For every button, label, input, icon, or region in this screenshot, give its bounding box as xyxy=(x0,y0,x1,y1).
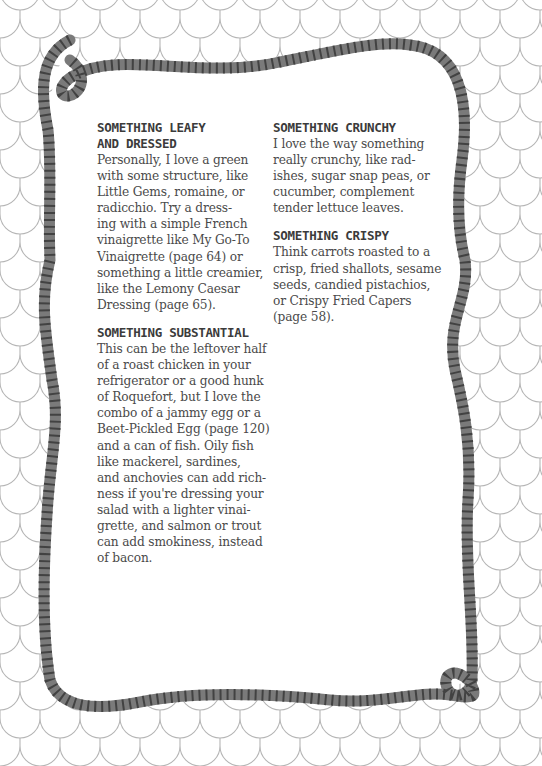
section-heading: SOMETHING CRUNCHY xyxy=(273,120,448,136)
section-crispy: SOMETHING CRISPY Think carrots roasted t… xyxy=(273,228,448,324)
section-heading: SOMETHING LEAFY AND DRESSED xyxy=(97,120,282,152)
section-body: Personally, I love a green with some str… xyxy=(97,152,282,313)
section-leafy-and-dressed: SOMETHING LEAFY AND DRESSED Personally, … xyxy=(97,120,282,313)
section-heading: SOMETHING CRISPY xyxy=(273,228,448,244)
section-heading: SOMETHING SUBSTANTIAL xyxy=(97,325,282,341)
section-body: This can be the leftover half of a roast… xyxy=(97,341,282,566)
cookbook-page: SOMETHING LEAFY AND DRESSED Personally, … xyxy=(0,0,542,766)
section-body: I love the way something really crunchy,… xyxy=(273,136,448,216)
left-column: SOMETHING LEAFY AND DRESSED Personally, … xyxy=(97,120,282,578)
section-substantial: SOMETHING SUBSTANTIAL This can be the le… xyxy=(97,325,282,566)
section-body: Think carrots roasted to a crisp, fried … xyxy=(273,244,448,324)
section-crunchy: SOMETHING CRUNCHY I love the way somethi… xyxy=(273,120,448,216)
right-column: SOMETHING CRUNCHY I love the way somethi… xyxy=(273,120,448,337)
